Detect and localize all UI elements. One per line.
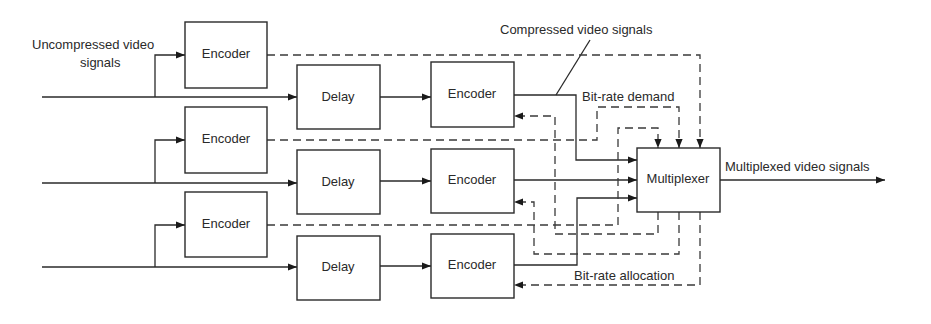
bitrate-allocation-label: Bit-rate allocation xyxy=(574,268,674,283)
encoder-2: Encoder xyxy=(431,149,514,213)
input-branch-1 xyxy=(155,55,185,97)
input-branch-3 xyxy=(155,225,185,267)
encoder-2-label: Encoder xyxy=(448,172,497,187)
pre-encoder-2: Encoder xyxy=(185,107,267,173)
compressed-leader-line xyxy=(556,40,590,95)
pre-encoder-1-label: Encoder xyxy=(202,46,251,61)
encoding-diagram: Encoder Encoder Encoder Delay Delay Dela… xyxy=(0,0,931,324)
delay-2-label: Delay xyxy=(321,174,355,189)
bitrate-demand-label: Bit-rate demand xyxy=(582,89,675,104)
encoder-1: Encoder xyxy=(431,62,514,127)
pre-encoder-3-label: Encoder xyxy=(202,216,251,231)
multiplexer: Multiplexer xyxy=(637,148,720,212)
delay-1: Delay xyxy=(297,65,380,129)
input-branch-2 xyxy=(155,140,185,183)
compressed-label: Compressed video signals xyxy=(500,22,653,37)
encoder-1-label: Encoder xyxy=(448,86,497,101)
pre-encoder-3: Encoder xyxy=(185,192,267,257)
encoder-3-label: Encoder xyxy=(448,257,497,272)
delay-2: Delay xyxy=(297,150,380,214)
pre-encoder-2-label: Encoder xyxy=(202,131,251,146)
delay-3-label: Delay xyxy=(321,259,355,274)
pre-encoder-1: Encoder xyxy=(185,22,267,88)
delay-3: Delay xyxy=(297,236,380,300)
encoder-3: Encoder xyxy=(431,234,514,298)
uncompressed-label-line2: signals xyxy=(80,55,121,70)
multiplexed-label: Multiplexed video signals xyxy=(725,159,870,174)
multiplexer-label: Multiplexer xyxy=(647,171,711,186)
uncompressed-label-line1: Uncompressed video xyxy=(32,37,154,52)
delay-1-label: Delay xyxy=(321,89,355,104)
